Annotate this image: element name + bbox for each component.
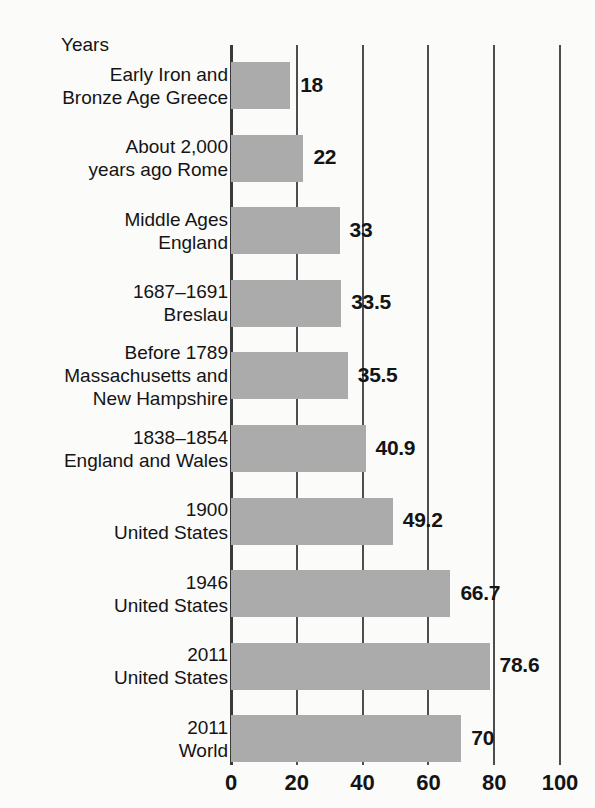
category-label-line: England and Wales [64, 449, 228, 472]
bar [231, 715, 461, 762]
category-label-line: Breslau [133, 303, 228, 326]
x-tick-label-0: 0 [225, 770, 237, 796]
bar-row: 33.51687–1691Breslau [0, 280, 595, 327]
bar-value-label: 18 [300, 73, 323, 97]
horizontal-bar-chart: Years 18Early Iron andBronze Age Greece2… [0, 0, 595, 808]
bar-row: 22About 2,000years ago Rome [0, 135, 595, 182]
category-label-line: United States [114, 521, 228, 544]
x-tick-label-100: 100 [542, 770, 579, 796]
bar-row: 33Middle AgesEngland [0, 207, 595, 254]
bar-value-label: 33.5 [351, 290, 391, 314]
bar [231, 207, 340, 254]
bar-value-label: 22 [313, 145, 336, 169]
category-label-line: United States [114, 594, 228, 617]
category-label: About 2,000years ago Rome [89, 135, 228, 181]
bar-value-label: 33 [350, 218, 373, 242]
x-tick-label-60: 60 [416, 770, 440, 796]
bar-value-label: 78.6 [500, 653, 540, 677]
bar-value-label: 49.2 [403, 508, 443, 532]
category-label-line: 2011 [114, 643, 228, 666]
bar-row: 702011World [0, 715, 595, 762]
bar-row: 66.71946United States [0, 570, 595, 617]
category-label-line: Massachusetts and [64, 364, 228, 387]
bar-row: 40.91838–1854England and Wales [0, 425, 595, 472]
bar-value-label: 40.9 [376, 436, 416, 460]
category-label: Early Iron andBronze Age Greece [62, 63, 228, 109]
bar [231, 570, 450, 617]
category-label: Before 1789Massachusetts andNew Hampshir… [64, 341, 228, 410]
category-label: 1687–1691Breslau [133, 280, 228, 326]
x-tick-label-80: 80 [482, 770, 506, 796]
bar [231, 135, 303, 182]
bar-row: 18Early Iron andBronze Age Greece [0, 62, 595, 109]
category-label: 1838–1854England and Wales [64, 426, 228, 472]
x-tick-label-40: 40 [350, 770, 374, 796]
bar [231, 643, 490, 690]
category-label-line: United States [114, 666, 228, 689]
category-label: 2011United States [114, 643, 228, 689]
category-label-line: years ago Rome [89, 158, 228, 181]
bar [231, 498, 393, 545]
category-label: Middle AgesEngland [124, 208, 228, 254]
category-label-line: 1946 [114, 571, 228, 594]
category-label-line: 1687–1691 [133, 280, 228, 303]
category-label-line: About 2,000 [89, 135, 228, 158]
bar-row: 49.21900United States [0, 498, 595, 545]
bar [231, 352, 348, 399]
x-tick-label-20: 20 [285, 770, 309, 796]
category-label-line: Before 1789 [64, 341, 228, 364]
category-label-line: World [179, 739, 228, 762]
category-label-line: England [124, 231, 228, 254]
category-label-line: Bronze Age Greece [62, 86, 228, 109]
category-label-line: Middle Ages [124, 208, 228, 231]
category-label-line: 1900 [114, 498, 228, 521]
category-label-line: 1838–1854 [64, 426, 228, 449]
bar-row: 78.62011United States [0, 643, 595, 690]
chart-page: ​ ​ ​ ​ Years 18Early Iron andBronze Age… [0, 0, 595, 808]
bar [231, 280, 341, 327]
bar [231, 62, 290, 109]
bar-value-label: 66.7 [460, 581, 500, 605]
bar-value-label: 70 [471, 726, 494, 750]
bar-value-label: 35.5 [358, 363, 398, 387]
category-label: 1946United States [114, 571, 228, 617]
category-label-line: 2011 [179, 716, 228, 739]
category-label: 1900United States [114, 498, 228, 544]
bar-row: 35.5Before 1789Massachusetts andNew Hamp… [0, 352, 595, 399]
axis-title-years: Years [61, 34, 109, 56]
category-label-line: New Hampshire [64, 387, 228, 410]
category-label: 2011World [179, 716, 228, 762]
bar [231, 425, 366, 472]
category-label-line: Early Iron and [62, 63, 228, 86]
